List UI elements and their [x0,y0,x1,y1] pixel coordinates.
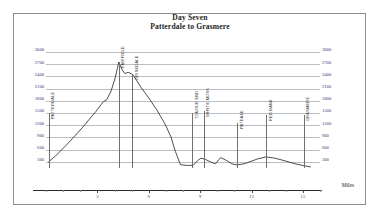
y-axis-tick-label-left: 2100 [20,84,44,89]
y-axis-tick-label-right: 2400 [322,72,346,77]
y-axis-tick-label-right: 1800 [322,96,346,101]
y-axis-tick-label-right: 1200 [322,121,346,126]
x-axis-tick-label: 12 [245,194,259,199]
waypoint-leader-line [132,74,133,168]
waypoint-label: GRASMERE [306,97,310,121]
waypoint-leader-line [204,111,205,168]
y-axis-tick-label-left: 900 [20,133,44,138]
chart-title-line2: Patterdale to Grasmere [0,22,380,31]
waypoint-leader-line [49,113,50,168]
chart-title: Day Seven Patterdale to Grasmere [0,13,380,31]
waypoint-label: WHYTE MOSS [206,88,210,117]
waypoint-leader-line [192,113,193,168]
y-axis-tick-label-left: 300 [20,157,44,162]
y-axis-tick-label-right: 3000 [322,47,346,52]
y-axis-tick-label-right: 300 [322,157,346,162]
waypoint-label: PATDALE [240,110,244,129]
x-axis-major-tick [200,190,201,193]
x-axis-major-tick [149,190,150,193]
elevation-profile-page: Day Seven Patterdale to Grasmere 3000300… [0,0,380,219]
elevation-line [46,52,320,174]
chart-title-line1: Day Seven [0,13,380,22]
x-axis-line [33,190,322,191]
x-axis-minor-tick [320,190,321,192]
waypoint-label: TONGUE END [195,91,199,119]
y-axis-tick-label-left: 2400 [20,72,44,77]
y-axis-tick-label-right: 600 [322,145,346,150]
x-axis-major-tick [97,190,98,193]
x-axis-minor-tick [80,190,81,192]
y-axis-tick-label-left: 2700 [20,60,44,65]
waypoint-label: PATTERDALE [51,92,55,119]
y-axis-tick-label-right: 900 [322,133,346,138]
y-axis-tick-label-right: 2100 [322,84,346,89]
waypoint-leader-line [304,115,305,168]
x-axis-minor-tick [132,190,133,192]
y-axis-tick-label-left: 3000 [20,47,44,52]
x-axis-unit-label: Miles [342,182,354,188]
waypoint-label: RED BANK [269,99,273,121]
x-axis-minor-tick [234,190,235,192]
x-axis-minor-tick [115,190,116,192]
waypoint-leader-line [266,115,267,168]
x-axis-minor-tick [46,190,47,192]
x-axis-major-tick [303,190,304,193]
x-axis-minor-tick [269,190,270,192]
waypoint-leader-line [119,62,120,168]
x-axis-tick-label: 9 [193,194,207,199]
waypoint-label: GRISEDALE [135,56,139,81]
x-axis-minor-tick [183,190,184,192]
y-axis-tick-label-left: 1500 [20,108,44,113]
waypoint-label: FAIRFIELD [121,46,125,68]
x-axis-tick-label: 3 [90,194,104,199]
plot-area [46,52,320,174]
y-axis-tick-label-left: 600 [20,145,44,150]
y-axis-tick-label-left: 1800 [20,96,44,101]
waypoint-leader-line [237,123,238,168]
x-axis-minor-tick [166,190,167,192]
x-axis-minor-tick [286,190,287,192]
x-axis-tick-label: 6 [142,194,156,199]
y-axis-tick-label-right: 2700 [322,60,346,65]
x-axis-major-tick [252,190,253,193]
y-axis-tick-label-left: 1200 [20,121,44,126]
y-axis-tick-label-right: 1500 [322,108,346,113]
x-axis-minor-tick [217,190,218,192]
x-axis-tick-label: 15 [296,194,310,199]
x-axis-minor-tick [63,190,64,192]
